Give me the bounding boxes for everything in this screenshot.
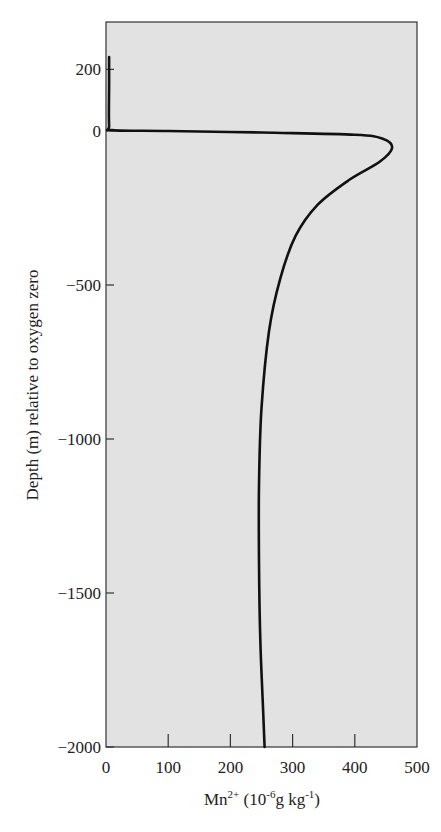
y-tick-label: −1500 bbox=[57, 584, 101, 603]
y-tick-label: −2000 bbox=[57, 738, 101, 757]
x-tick-label: 400 bbox=[342, 758, 368, 777]
y-axis-title: Depth (m) relative to oxygen zero bbox=[23, 270, 42, 501]
x-axis-title: Mn2+ (10-6g kg-1) bbox=[204, 788, 320, 809]
x-tick-label: 200 bbox=[218, 758, 244, 777]
x-tick-label: 500 bbox=[404, 758, 430, 777]
y-tick-label: −1000 bbox=[57, 430, 101, 449]
y-tick-label: 200 bbox=[76, 60, 102, 79]
chart: 2000−500−1000−1500−2000 0100200300400500… bbox=[0, 0, 441, 832]
x-tick-label: 0 bbox=[102, 758, 111, 777]
x-tick-label: 300 bbox=[280, 758, 306, 777]
y-tick-label: −500 bbox=[66, 276, 101, 295]
x-tick-label: 100 bbox=[155, 758, 181, 777]
y-tick-label: 0 bbox=[93, 122, 102, 141]
